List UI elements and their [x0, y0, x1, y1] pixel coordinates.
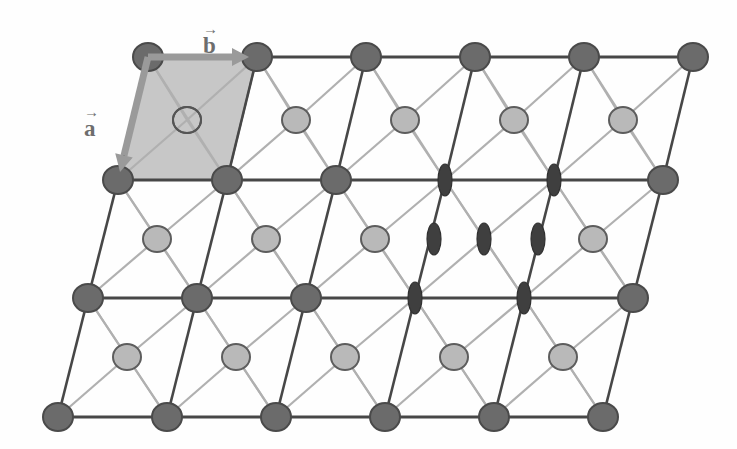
lattice-site-r3-c1 — [152, 403, 182, 431]
lattice-site-r1-c4 — [547, 164, 561, 196]
interstitial-site-r1-c2 — [361, 226, 389, 252]
interstitial-site-r2-c1 — [222, 344, 250, 370]
lattice-site-r0-c4 — [569, 43, 599, 71]
lattice-site-r1-c0 — [103, 166, 133, 194]
interstitial-site-r0-c4 — [609, 107, 637, 133]
interstitial-site-r0-c3 — [500, 107, 528, 133]
lattice-site-r0-c5 — [678, 43, 708, 71]
lattice-site-r3-c5 — [588, 403, 618, 431]
column-bond-1-2 — [306, 180, 336, 298]
lattice-site-r3-c0 — [43, 403, 73, 431]
lattice-site-r1-c2 — [321, 166, 351, 194]
vector-a-label: → a — [84, 108, 98, 140]
lattice-site-r2-c2 — [291, 284, 321, 312]
lattice-site-r2-c3 — [408, 282, 422, 314]
column-bond-2-4 — [494, 298, 524, 417]
column-bond-1-0 — [88, 180, 118, 298]
column-bond-0-5 — [663, 57, 693, 180]
ellipse-mid-left — [427, 223, 441, 255]
column-bond-2-3 — [385, 298, 415, 417]
lattice-site-r1-c5 — [648, 166, 678, 194]
lattice-site-r2-c0 — [73, 284, 103, 312]
column-bond-0-4 — [554, 57, 584, 180]
interstitial-site-r2-c2 — [331, 344, 359, 370]
column-bond-1-1 — [197, 180, 227, 298]
interstitial-site-r2-c0 — [113, 344, 141, 370]
lattice-site-r3-c4 — [479, 403, 509, 431]
column-bond-0-2 — [336, 57, 366, 180]
lattice-site-r1-c3 — [438, 164, 452, 196]
interstitial-site-r1-c0 — [143, 226, 171, 252]
interstitial-site-r2-c3 — [440, 344, 468, 370]
lattice-site-r3-c3 — [370, 403, 400, 431]
column-bond-2-1 — [167, 298, 197, 417]
vector-b-arrow-accent: → — [203, 25, 217, 33]
lattice-site-r2-c4 — [517, 282, 531, 314]
vector-b-text: b — [203, 33, 216, 58]
ellipse-mid-right — [531, 223, 545, 255]
lattice-diagram — [0, 0, 737, 449]
vector-a-arrow-accent: → — [84, 108, 98, 116]
crystal-lattice-figure: → a → b — [0, 0, 737, 449]
interstitial-site-r0-c2 — [391, 107, 419, 133]
column-bond-1-5 — [633, 180, 663, 298]
interstitial-site-r1-c4 — [579, 226, 607, 252]
interstitial-site-r2-c4 — [549, 344, 577, 370]
interstitial-site-r0-c1 — [282, 107, 310, 133]
column-bond-2-2 — [276, 298, 306, 417]
interstitial-bond-1-3-2 — [415, 239, 484, 298]
interstitial-site-r1-c1 — [252, 226, 280, 252]
column-bond-2-5 — [603, 298, 633, 417]
vector-b-label: → b — [203, 25, 217, 57]
column-bond-0-3 — [445, 57, 475, 180]
lattice-site-r3-c2 — [261, 403, 291, 431]
vector-a-text: a — [84, 116, 96, 141]
lattice-site-r1-c1 — [212, 166, 242, 194]
lattice-site-r0-c3 — [460, 43, 490, 71]
column-bond-2-0 — [58, 298, 88, 417]
lattice-site-r0-c2 — [351, 43, 381, 71]
interstitial-site-r1-c3 — [477, 223, 491, 255]
lattice-site-r2-c5 — [618, 284, 648, 312]
lattice-site-r2-c1 — [182, 284, 212, 312]
